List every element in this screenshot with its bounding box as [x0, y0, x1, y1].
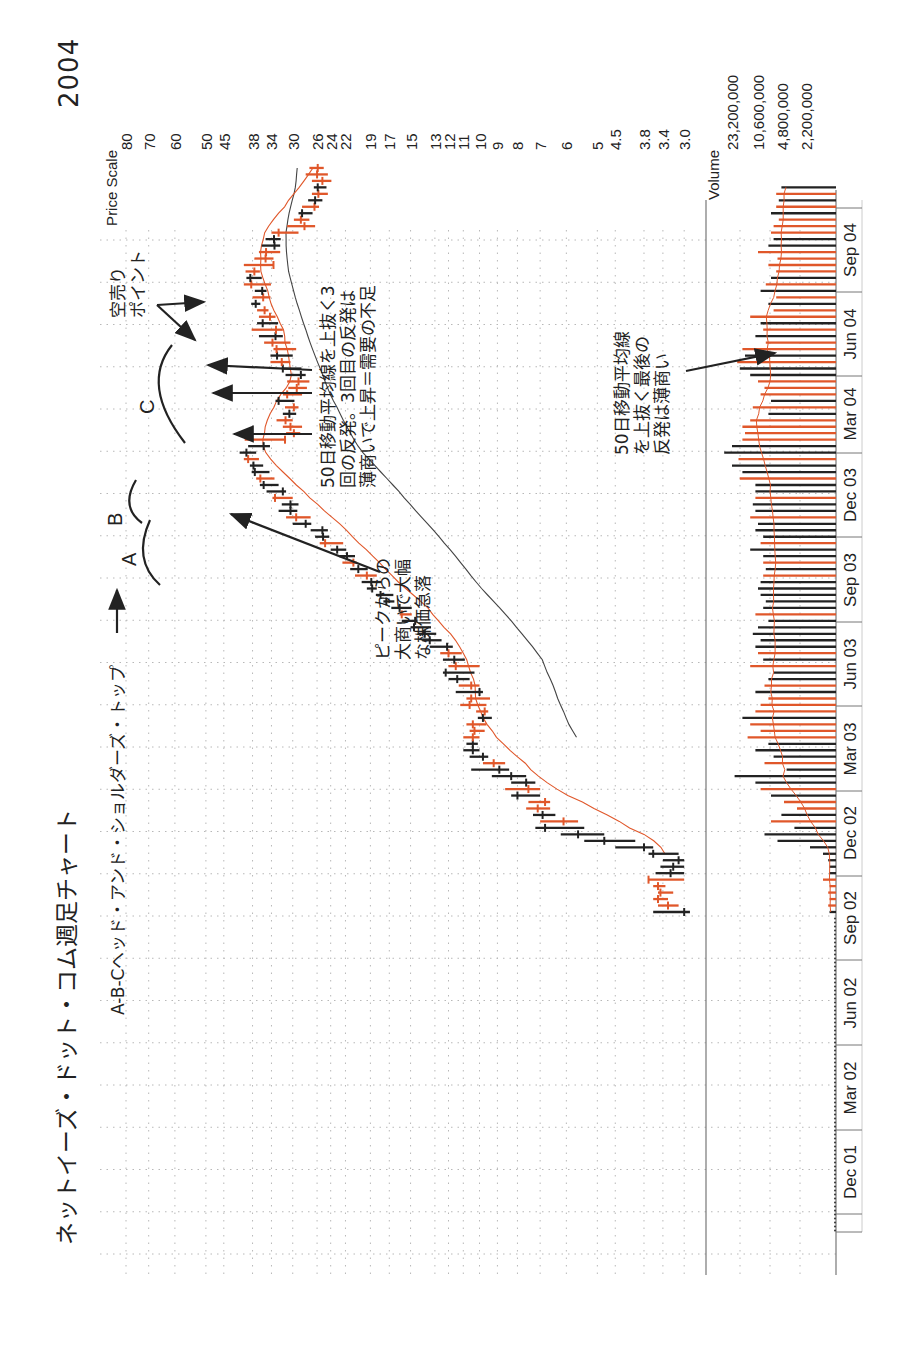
price-volume-chart: Dec 01Mar 02Jun 02Sep 02Dec 02Mar 03Jun … — [0, 0, 900, 1355]
annotation-three-rallies: 50日移動平均線を上抜く3 回の反発。3回目の反発は 薄商いで上昇＝需要の不足 — [318, 285, 378, 488]
price-bars — [240, 164, 690, 916]
label-a: A — [118, 553, 141, 566]
chart-axes — [706, 190, 862, 1275]
price-tick-label: 8 — [509, 142, 526, 150]
price-tick-label: 11 — [455, 134, 472, 150]
price-tick-label: 80 — [118, 133, 135, 150]
price-tick-label: 30 — [285, 133, 302, 150]
price-tick-label: 50 — [198, 133, 215, 150]
price-tick-label: 9 — [489, 142, 506, 150]
price-tick-label: 10 — [472, 133, 489, 150]
annotation-short-point: 空売り ポイント — [108, 250, 148, 318]
price-tick-label: 22 — [337, 133, 354, 150]
chart-subtitle: A-B-Cヘッド・アンド・ショルダーズ・トップ — [104, 665, 129, 1015]
ma50-line — [261, 168, 665, 854]
volume-tick-label: 2,200,000 — [798, 83, 815, 150]
price-tick-label: 15 — [403, 133, 420, 150]
date-tick-label: Sep 03 — [841, 553, 860, 607]
annotation-peak-drop: ピークからの 大商いで大幅 な株価急落 — [373, 558, 433, 660]
date-tick-label: Jun 03 — [841, 638, 860, 689]
price-tick-label: 7 — [532, 142, 549, 150]
date-tick-label: Mar 02 — [841, 1062, 860, 1115]
date-tick-label: Dec 02 — [841, 806, 860, 860]
short-arrow-2 — [157, 305, 195, 340]
date-tick-label: Dec 03 — [841, 468, 860, 522]
date-tick-label: Sep 04 — [841, 223, 860, 277]
volume-tick-label: 23,200,000 — [724, 75, 741, 150]
date-tick-label: Sep 02 — [841, 891, 860, 945]
chart-title: ネットイーズ・ドット・コム週足チャート — [48, 809, 82, 1245]
annotation-arrows — [117, 302, 775, 633]
date-tick-label: Jun 02 — [841, 977, 860, 1028]
date-tick-label: Dec 01 — [841, 1145, 860, 1199]
volume-bars — [724, 187, 836, 1231]
short-arrow-1 — [157, 302, 204, 305]
price-tick-label: 34 — [263, 133, 280, 150]
annotation-last-rally-volume: 50日移動平均線 を上抜く最後の 反発は薄商い — [612, 331, 672, 455]
price-tick-label: 17 — [381, 133, 398, 150]
price-tick-label: 5 — [589, 142, 606, 150]
volume-tick-label: 4,800,000 — [774, 83, 791, 150]
price-tick-label: 4.5 — [607, 129, 624, 150]
year-label: 2004 — [54, 38, 84, 108]
label-b: B — [104, 513, 127, 526]
volume-tick-label: 10,600,000 — [750, 75, 767, 150]
arc-a — [143, 520, 160, 585]
price-tick-label: 38 — [245, 133, 262, 150]
price-tick-label: 3.8 — [636, 129, 653, 150]
price-tick-label: 3.4 — [655, 129, 672, 150]
price-tick-label: 6 — [558, 142, 575, 150]
axis-tick-labels: Dec 01Mar 02Jun 02Sep 02Dec 02Mar 03Jun … — [103, 75, 860, 1199]
arc-c — [159, 345, 185, 443]
price-scale-title: Price Scale — [103, 150, 120, 226]
volume-title: Volume — [705, 150, 722, 200]
label-c: C — [136, 400, 159, 414]
price-tick-label: 19 — [362, 133, 379, 150]
date-tick-label: Jun 04 — [841, 308, 860, 359]
date-tick-label: Mar 04 — [841, 388, 860, 441]
price-tick-label: 45 — [216, 133, 233, 150]
price-tick-label: 70 — [141, 133, 158, 150]
arc-b — [129, 480, 142, 523]
chart-grid — [100, 230, 836, 1275]
date-tick-label: Mar 03 — [841, 723, 860, 776]
price-tick-label: 60 — [167, 133, 184, 150]
price-tick-label: 3.0 — [676, 129, 693, 150]
